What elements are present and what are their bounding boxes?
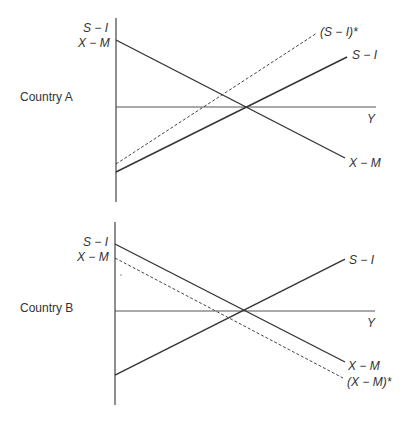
panel-country-b: Country B S − I X − M Y X − M S − I (X −… [20, 222, 392, 405]
s-i-curve-label: S − I [349, 253, 375, 267]
s-i-star-curve [116, 33, 317, 164]
country-b-label: Country B [20, 301, 73, 315]
s-i-curve [116, 57, 347, 172]
s-i-curve-label: S − I [352, 48, 378, 62]
diagram-canvas: Country A S − I X − M Y X − M S − I (S −… [0, 0, 407, 424]
x-m-curve-label: X − M [347, 359, 380, 373]
stray-dot [120, 274, 121, 275]
x-m-star-curve-label: (X − M)* [347, 375, 392, 389]
y-label: Y [367, 316, 376, 330]
axis-label-s-i: S − I [83, 235, 109, 249]
y-label: Y [367, 112, 376, 126]
country-a-label: Country A [20, 90, 73, 104]
axis-label-x-m: X − M [77, 36, 110, 50]
x-m-curve [116, 40, 345, 158]
axis-label-s-i: S − I [83, 21, 109, 35]
s-i-star-curve-label: (S − I)* [320, 25, 358, 39]
s-i-curve [115, 259, 345, 375]
panel-country-a: Country A S − I X − M Y X − M S − I (S −… [20, 18, 381, 202]
x-m-curve [115, 244, 345, 362]
axis-label-x-m: X − M [76, 250, 109, 264]
x-m-curve-label: X − M [348, 156, 381, 170]
